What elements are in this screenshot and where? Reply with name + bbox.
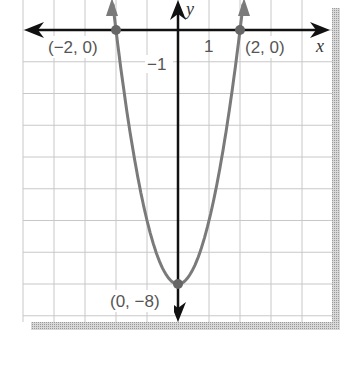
label-left-root: (−2, 0): [48, 38, 98, 57]
parabola-graph: (−2, 0) (2, 0) (0, −8) 1 −1 x y: [0, 0, 342, 366]
point-vertex: [173, 279, 183, 289]
x-axis-label: x: [315, 36, 324, 56]
label-vertex: (0, −8): [110, 292, 160, 311]
tick-label-x-1: 1: [204, 37, 213, 56]
tick-label-y-minus-1: −1: [147, 55, 166, 74]
label-right-root: (2, 0): [245, 38, 285, 57]
y-axis-label: y: [184, 0, 194, 19]
point-left-root: [111, 25, 121, 35]
point-right-root: [235, 25, 245, 35]
